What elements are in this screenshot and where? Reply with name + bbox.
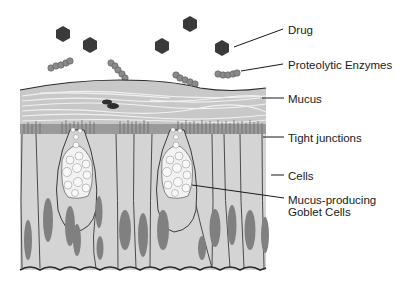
drug-icon — [56, 26, 70, 42]
label-goblet-cells-line2: Goblet Cells — [288, 206, 351, 218]
enzyme-icon — [108, 60, 128, 81]
drug-icons — [56, 16, 229, 56]
label-cells: Cells — [288, 170, 314, 182]
drug-icon — [183, 16, 197, 32]
label-drug: Drug — [288, 24, 313, 36]
label-tight-junctions: Tight junctions — [288, 132, 362, 144]
drug-icon — [83, 37, 97, 53]
label-proteolytic-enzymes: Proteolytic Enzymes — [288, 59, 392, 71]
enzyme-icon — [215, 70, 240, 78]
label-mucus: Mucus — [288, 93, 322, 105]
enzyme-icon — [48, 58, 73, 71]
drug-icon — [215, 40, 229, 56]
drug-icon — [155, 38, 169, 54]
label-goblet-cells-line1: Mucus-producing — [288, 194, 376, 206]
